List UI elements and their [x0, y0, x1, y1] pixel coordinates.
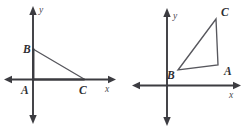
- left-vertex-label-c: C: [79, 84, 87, 96]
- right-x-axis-label: x: [228, 90, 234, 100]
- right-triangle-outline: [178, 19, 218, 70]
- left-vertex-label-a: A: [20, 84, 29, 96]
- right-x-axis-arrow-negative: [132, 82, 140, 89]
- right-x-axis-arrow-positive: [233, 82, 241, 89]
- right-vertex-label-c: C: [221, 6, 229, 18]
- figure-root: B A C y x: [0, 0, 250, 131]
- left-y-axis-arrow-positive: [29, 6, 36, 15]
- right-coordinate-plane: C A B y x: [125, 0, 250, 131]
- right-y-axis-arrow-positive: [163, 8, 170, 17]
- right-vertex-label-b: B: [166, 69, 175, 81]
- left-y-axis-arrow-negative: [29, 115, 36, 124]
- left-x-axis-label: x: [104, 84, 110, 94]
- preimage-triangle-panel: B A C y x: [0, 0, 125, 131]
- left-x-axis-arrow-positive: [108, 76, 116, 83]
- right-y-axis-label: y: [172, 11, 178, 21]
- left-triangle-abc: [33, 49, 84, 80]
- right-x-axis: [132, 82, 241, 89]
- right-triangle-abc: [178, 19, 218, 70]
- left-x-axis-arrow-negative: [4, 76, 12, 83]
- left-vertex-label-b: B: [22, 43, 31, 55]
- image-triangle-panel: C A B y x: [125, 0, 250, 131]
- right-y-axis-arrow-negative: [163, 117, 170, 126]
- left-y-axis-label: y: [38, 5, 44, 15]
- left-coordinate-plane: B A C y x: [0, 0, 125, 131]
- right-vertex-label-a: A: [223, 65, 232, 77]
- left-side-bc: [33, 49, 84, 79]
- right-y-axis: [163, 8, 170, 126]
